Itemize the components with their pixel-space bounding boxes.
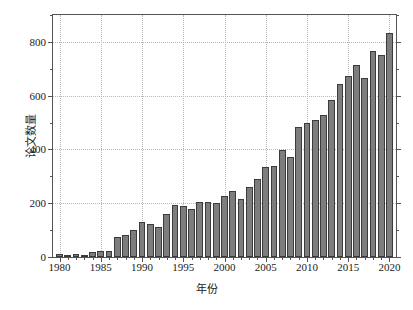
x-tick-minor [93, 257, 94, 260]
y-axis-title: 论文数量 [25, 114, 38, 158]
bar [328, 100, 335, 257]
x-tick-minor [241, 257, 242, 260]
bar [221, 196, 228, 257]
x-tick-label: 1980 [49, 261, 71, 273]
bar [279, 150, 286, 257]
x-tick-minor [216, 257, 217, 260]
bar [246, 187, 253, 257]
x-tick-minor [117, 257, 118, 260]
bar [345, 76, 352, 257]
y-tick-minor-right [396, 176, 399, 177]
y-tick-major-right [396, 42, 401, 43]
y-tick-minor [50, 69, 53, 70]
bar [139, 222, 146, 257]
x-axis-title: 年份 [0, 283, 413, 296]
y-tick-major [48, 257, 53, 258]
bar [172, 205, 179, 257]
bar [196, 202, 203, 257]
bar [188, 209, 195, 257]
y-tick-minor-right [396, 69, 399, 70]
x-tick-minor [332, 257, 333, 260]
bar [213, 203, 220, 257]
x-tick-minor [109, 257, 110, 260]
x-tick-minor [340, 257, 341, 260]
x-tick-minor [373, 257, 374, 260]
bar [155, 227, 162, 257]
x-tick-minor [68, 257, 69, 260]
bar [337, 84, 344, 257]
y-tick-major-right [396, 96, 401, 97]
bar [262, 167, 269, 257]
x-tick-label: 1990 [131, 261, 153, 273]
x-tick-minor [315, 257, 316, 260]
bar [287, 157, 294, 257]
bar [122, 235, 129, 257]
y-tick-major [48, 203, 53, 204]
bar [229, 191, 236, 257]
x-tick-minor [233, 257, 234, 260]
bar [361, 78, 368, 257]
y-tick-label: 0 [41, 252, 47, 263]
x-tick-minor [126, 257, 127, 260]
x-tick-label: 2015 [337, 261, 359, 273]
bar [114, 237, 121, 257]
x-tick-minor [84, 257, 85, 260]
y-tick-minor [50, 123, 53, 124]
y-tick-major-right [396, 257, 401, 258]
x-tick-label: 2000 [214, 261, 236, 273]
bar [205, 202, 212, 257]
y-tick-minor [50, 230, 53, 231]
x-tick-minor [150, 257, 151, 260]
x-tick-label: 1985 [90, 261, 112, 273]
bars-group [53, 15, 396, 257]
bar [163, 214, 170, 257]
x-tick-minor [192, 257, 193, 260]
bar [271, 166, 278, 257]
plot-area: 0200400600800 19801985199019952000200520… [52, 14, 397, 258]
x-tick-minor [323, 257, 324, 260]
x-tick-minor [134, 257, 135, 260]
x-tick-minor [290, 257, 291, 260]
x-tick-minor [159, 257, 160, 260]
bar [370, 51, 377, 257]
x-tick-minor [381, 257, 382, 260]
bar [386, 33, 393, 257]
bar-chart-figure: 0200400600800 19801985199019952000200520… [0, 0, 413, 310]
y-tick-major-right [396, 149, 401, 150]
x-tick-minor [200, 257, 201, 260]
y-tick-minor [50, 15, 53, 16]
bar [254, 179, 261, 258]
y-tick-minor-right [396, 123, 399, 124]
y-tick-minor-right [396, 230, 399, 231]
y-tick-major [48, 149, 53, 150]
bar [353, 65, 360, 257]
bar [304, 123, 311, 257]
x-tick-minor [167, 257, 168, 260]
x-tick-minor [76, 257, 77, 260]
y-tick-label: 600 [30, 90, 47, 101]
bar [130, 230, 137, 257]
bar [295, 127, 302, 257]
x-tick-label: 2010 [296, 261, 318, 273]
x-tick-minor [356, 257, 357, 260]
x-tick-minor [249, 257, 250, 260]
y-tick-major-right [396, 203, 401, 204]
bar [180, 206, 187, 257]
bar [378, 55, 385, 257]
x-tick-minor [208, 257, 209, 260]
x-tick-label: 2020 [378, 261, 400, 273]
bar [238, 199, 245, 257]
y-tick-label: 200 [30, 198, 47, 209]
x-tick-minor [299, 257, 300, 260]
x-tick-minor [365, 257, 366, 260]
bar [147, 224, 154, 257]
y-tick-minor [50, 176, 53, 177]
y-tick-major [48, 96, 53, 97]
y-tick-major [48, 42, 53, 43]
y-tick-minor-right [396, 15, 399, 16]
x-tick-label: 2005 [255, 261, 277, 273]
x-tick-minor [274, 257, 275, 260]
bar [320, 115, 327, 257]
x-tick-minor [257, 257, 258, 260]
y-tick-label: 800 [30, 36, 47, 47]
